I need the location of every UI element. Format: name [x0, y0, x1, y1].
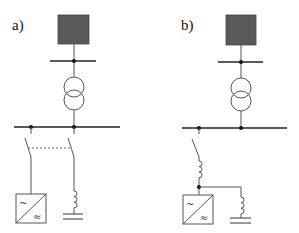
- junction-dot: [239, 126, 243, 130]
- ground-icon: [230, 218, 251, 223]
- ac-symbol: ~: [186, 199, 194, 210]
- shunt-inductor-icon: [241, 197, 244, 214]
- junction-dot: [72, 59, 76, 63]
- converter-icon: ~ ≈: [16, 194, 46, 223]
- grid-source-icon: [58, 15, 89, 44]
- series-inductor-icon: [199, 161, 202, 178]
- switch-icon: [25, 127, 31, 194]
- panel-label-a: a): [12, 17, 24, 34]
- dc-symbol: ≈: [33, 211, 41, 222]
- switch-icon: [68, 127, 74, 191]
- junction-dot: [239, 60, 243, 64]
- switch-icon: [192, 128, 199, 161]
- transformer-icon: [231, 78, 251, 111]
- converter-icon: ~ ≈: [183, 195, 213, 224]
- ac-symbol: ~: [19, 198, 27, 209]
- panel-label-b: b): [181, 17, 194, 34]
- panel-a: a): [12, 15, 120, 223]
- panel-b: b) ~ ≈: [181, 15, 287, 224]
- dc-symbol: ≈: [200, 212, 208, 223]
- single-line-diagram: a): [0, 0, 299, 233]
- transformer-icon: [64, 77, 84, 110]
- ground-icon: [63, 214, 83, 219]
- grid-source-icon: [226, 15, 256, 45]
- inductor-icon: [74, 191, 77, 208]
